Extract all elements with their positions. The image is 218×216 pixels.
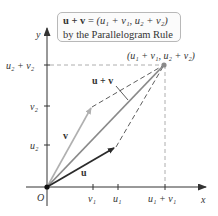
x-tick-label-u1: u₁ xyxy=(113,193,121,204)
sum-point xyxy=(161,62,166,67)
x-tick-label-u1-plus-v1: u₁ + v₁ xyxy=(148,193,176,204)
origin-point xyxy=(44,184,49,189)
y-axis-label: y xyxy=(35,29,41,40)
parallelogram-side-from-u xyxy=(116,65,164,147)
sum-label-leader xyxy=(116,86,128,100)
vector-v-label: v xyxy=(63,130,68,141)
x-axis-label: x xyxy=(200,194,206,205)
vector-sum-label: u + v xyxy=(92,75,113,86)
y-tick-label-u2: u₂ xyxy=(30,140,39,151)
y-tick-label-u2-plus-v2: u₂ + v₂ xyxy=(6,60,35,71)
parallelogram-side-from-v xyxy=(92,65,164,107)
y-tick-label-v2: v₂ xyxy=(30,101,38,112)
parallelogram-diagram: x y O v₁ u₁ u₁ + v₁ u₂ v₂ u₂ + v₂ u v u … xyxy=(0,0,218,216)
sum-point-label: (u₁ + v₁, u₂ + v₂) xyxy=(127,50,196,62)
vector-u-label: u xyxy=(81,167,87,178)
origin-label: O xyxy=(37,192,44,203)
x-tick-label-v1: v₁ xyxy=(88,193,96,204)
